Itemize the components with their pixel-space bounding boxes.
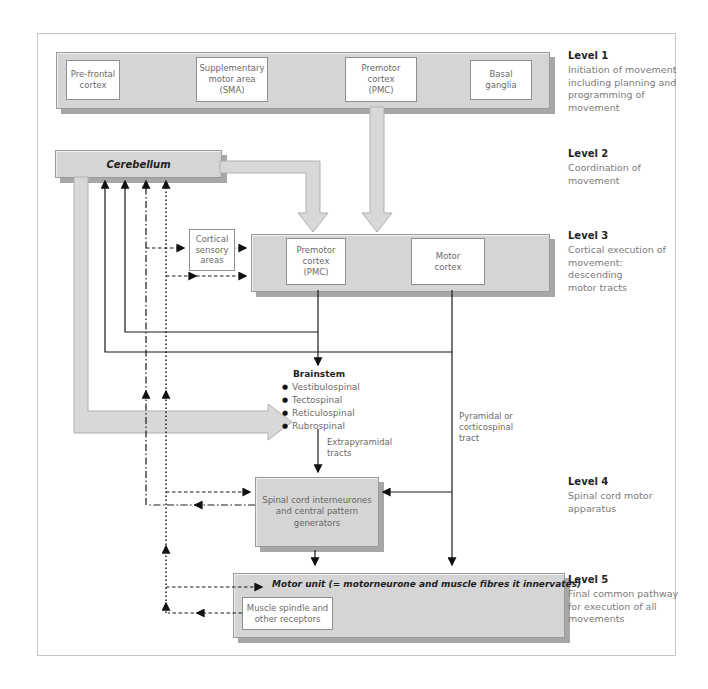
diagram-frame: [37, 33, 676, 656]
cerebellum-box: Cerebellum: [55, 150, 222, 178]
bullet-icon: ●: [282, 420, 288, 433]
extrapyramidal-tracts-label: Extrapyramidal tracts: [327, 437, 392, 459]
brainstem-title: Brainstem: [293, 369, 360, 379]
annotation-level2: Level 2 Coordination of movement: [568, 148, 680, 187]
muscle-spindle-box: Muscle spindle and other receptors: [242, 597, 333, 630]
brainstem-tract-item: ● Tectospinal: [282, 394, 360, 407]
annotation-level3: Level 3 Cortical execution of movement: …: [568, 230, 680, 294]
annotation-level4: Level 4 Spinal cord motor apparatus: [568, 476, 680, 515]
annotation-text: Coordination of movement: [568, 162, 680, 187]
tract-label: Vestibulospinal: [292, 381, 360, 394]
bullet-icon: ●: [282, 394, 288, 407]
motor-cortex-box: Motor cortex: [411, 238, 485, 285]
tract-label: Rubrospinal: [292, 420, 345, 433]
brainstem-tract-item: ● Rubrospinal: [282, 420, 360, 433]
premotor-cortex-level1-box: Premotor cortex (PMC): [345, 57, 417, 102]
annotation-heading: Level 3: [568, 230, 680, 241]
tract-label: Reticulospinal: [292, 407, 355, 420]
annotation-heading: Level 2: [568, 148, 680, 159]
annotation-text: Spinal cord motor apparatus: [568, 490, 680, 515]
spinal-cord-box: Spinal cord interneurones and central pa…: [255, 477, 379, 547]
premotor-cortex-level3-box: Premotor cortex (PMC): [286, 238, 346, 285]
cerebellum-label: Cerebellum: [106, 159, 170, 170]
basal-ganglia-box: Basal ganglia: [470, 60, 532, 100]
brainstem-tract-item: ● Vestibulospinal: [282, 381, 360, 394]
annotation-level5: Level 5 Final common pathway for executi…: [568, 574, 680, 626]
annotation-text: Cortical execution of movement: descendi…: [568, 244, 680, 294]
annotation-heading: Level 4: [568, 476, 680, 487]
annotation-text: Final common pathway for execution of al…: [568, 588, 680, 626]
annotation-text: Initiation of movement including plannin…: [568, 64, 680, 114]
tract-label: Tectospinal: [292, 394, 342, 407]
sma-box: Supplementary motor area (SMA): [196, 57, 268, 102]
annotation-heading: Level 5: [568, 574, 680, 585]
cortical-sensory-areas-box: Cortical sensory areas: [189, 229, 235, 271]
motor-unit-label: Motor unit (= motorneurone and muscle fi…: [272, 579, 581, 589]
bullet-icon: ●: [282, 381, 288, 394]
pyramidal-tract-label: Pyramidal or corticospinal tract: [459, 411, 513, 444]
brainstem-block: Brainstem ● Vestibulospinal ● Tectospina…: [282, 369, 360, 433]
prefrontal-cortex-box: Pre-frontal cortex: [66, 60, 120, 100]
annotation-level1: Level 1 Initiation of movement including…: [568, 50, 680, 114]
spinal-cord-label: Spinal cord interneurones and central pa…: [256, 495, 378, 528]
bullet-icon: ●: [282, 407, 288, 420]
brainstem-tract-item: ● Reticulospinal: [282, 407, 360, 420]
annotation-heading: Level 1: [568, 50, 680, 61]
